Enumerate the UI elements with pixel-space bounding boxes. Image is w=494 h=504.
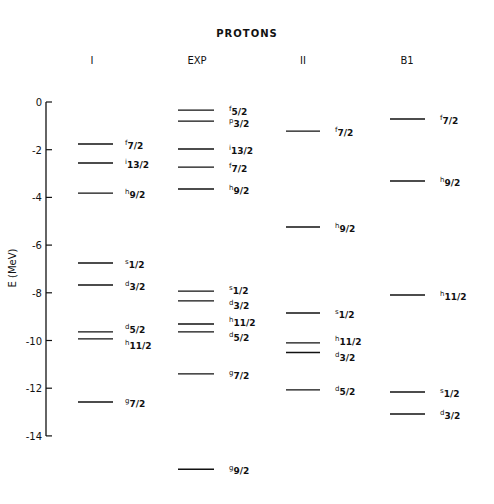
level-label: s1/2: [440, 387, 459, 399]
y-tick-label: -14: [26, 431, 42, 442]
level-label: f7/2: [125, 139, 143, 151]
level-label: h9/2: [440, 176, 460, 188]
level-label: s1/2: [229, 284, 248, 296]
series-exp: f5/2p3/2i13/2f7/2h9/2s1/2d3/2h11/2d5/2g7…: [178, 105, 256, 476]
level-label: g9/2: [229, 464, 249, 476]
column-header-ii: II: [300, 55, 306, 66]
level-label: f5/2: [229, 105, 247, 117]
level-label: h11/2: [335, 335, 362, 347]
series-b1: f7/2h9/2h11/2s1/2d3/2: [390, 114, 467, 421]
y-tick-label: -6: [32, 240, 42, 251]
column-headers: IEXPIIB1: [91, 55, 414, 66]
level-label: d3/2: [440, 409, 460, 421]
level-label: i13/2: [229, 144, 253, 156]
level-label: i13/2: [125, 158, 149, 170]
level-label: f7/2: [229, 162, 247, 174]
y-axis: 0-2-4-6-8-10-12-14: [26, 97, 52, 442]
level-label: h9/2: [229, 184, 249, 196]
y-tick-label: -10: [26, 336, 42, 347]
level-label: d3/2: [335, 351, 355, 363]
y-tick-label: 0: [36, 97, 42, 108]
level-label: d3/2: [229, 299, 249, 311]
level-label: g7/2: [125, 397, 145, 409]
y-tick-label: -4: [32, 192, 42, 203]
level-label: d3/2: [125, 280, 145, 292]
level-label: s1/2: [335, 308, 354, 320]
level-label: h11/2: [440, 290, 467, 302]
level-label: f7/2: [335, 126, 353, 138]
energy-levels: f7/2i13/2h9/2s1/2d3/2d5/2h11/2g7/2f5/2p3…: [78, 105, 467, 476]
level-label: d5/2: [229, 331, 249, 343]
y-axis-label: E (MeV): [7, 248, 18, 287]
column-header-b1: B1: [400, 55, 413, 66]
level-label: h9/2: [125, 188, 145, 200]
level-label: s1/2: [125, 258, 144, 270]
y-tick-label: -2: [32, 145, 42, 156]
y-tick-label: -8: [32, 288, 42, 299]
chart-title: PROTONS: [216, 28, 277, 39]
level-label: h11/2: [229, 316, 256, 328]
level-diagram-chart: PROTONS IEXPIIB1 0-2-4-6-8-10-12-14 E (M…: [0, 0, 494, 504]
level-label: f7/2: [440, 114, 458, 126]
column-header-i: I: [91, 55, 94, 66]
series-ii: f7/2h9/2s1/2h11/2d3/2d5/2: [286, 126, 362, 397]
level-label: d5/2: [125, 323, 145, 335]
level-label: d5/2: [335, 385, 355, 397]
series-i: f7/2i13/2h9/2s1/2d3/2d5/2h11/2g7/2: [78, 139, 152, 409]
level-label: g7/2: [229, 369, 249, 381]
y-tick-label: -12: [26, 383, 42, 394]
level-label: h9/2: [335, 222, 355, 234]
level-label: h11/2: [125, 339, 152, 351]
column-header-exp: EXP: [187, 55, 206, 66]
level-label: p3/2: [229, 117, 249, 129]
